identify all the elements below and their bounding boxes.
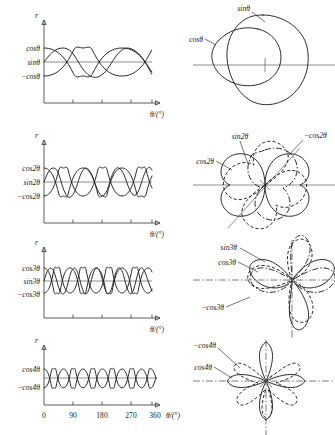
row3-polar-label-negcos3: −cos3θ xyxy=(201,303,224,312)
row1-polar-label-cos: cosθ xyxy=(189,35,203,44)
row3-cartesian-panel: cos3θ sin3θ −cos3θ r θ/(°) xyxy=(17,238,164,334)
row2-axes xyxy=(42,140,160,225)
row2-r-axis-label: r xyxy=(35,131,38,140)
row3-polar-label-cos3: cos3θ xyxy=(218,258,236,267)
row1-ylabel-2: −cosθ xyxy=(21,72,40,81)
row4-polar-label-negcos4: −cos4θ xyxy=(193,341,216,350)
row4-y-labels: cos4θ −cos4θ xyxy=(17,365,40,392)
row1-axes xyxy=(42,20,160,105)
row4-theta-axis-label: θ/(°) xyxy=(166,411,180,420)
xtick-3: 270 xyxy=(125,411,137,420)
xtick-2: 180 xyxy=(96,411,108,420)
row4-polar-labels: −cos4θ cos4θ xyxy=(193,341,240,378)
row2-ylabel-0: cos2θ xyxy=(22,164,40,173)
row2-polar-label-sin2: sin2θ xyxy=(232,132,249,141)
row4-cartesian-panel: cos4θ −cos4θ r 0 90 180 270 360 θ/(°) xyxy=(17,336,180,420)
row2-ylabel-2: −cos2θ xyxy=(17,192,40,201)
row2-polar-label-negcos2: −cos2θ xyxy=(304,131,327,140)
row4-x-ticklabels: 0 90 180 270 360 xyxy=(42,411,161,420)
row3-polar-labels: sin3θ cos3θ −cos3θ xyxy=(201,243,265,312)
row1-ylabel-0: cosθ xyxy=(26,44,40,53)
row2-polar-panel: sin2θ −cos2θ cos2θ xyxy=(193,131,335,229)
row1-polar-panel: sinθ cosθ xyxy=(189,4,335,105)
row4-polar-label-cos4: cos4θ xyxy=(194,363,212,372)
row3-ylabel-1: sin3θ xyxy=(24,277,41,286)
row4-ylabel-0: cos4θ xyxy=(22,365,40,374)
row1-curve-cos xyxy=(44,48,152,77)
row1-polar-label-sin: sinθ xyxy=(237,4,250,13)
row1-ylabel-1: sinθ xyxy=(27,58,40,67)
row4-polar-curve-negcos4 xyxy=(234,363,300,418)
row1-cartesian-panel: cosθ sinθ −cosθ r θ/(°) xyxy=(21,11,164,119)
row3-polar-panel: sin3θ cos3θ −cos3θ xyxy=(193,235,335,338)
row3-polar-curve-negcos3 xyxy=(250,235,335,292)
row1-polar-labels: sinθ cosθ xyxy=(189,4,265,45)
row3-y-labels: cos3θ sin3θ −cos3θ xyxy=(17,264,40,299)
row2-theta-axis-label: θ/(°) xyxy=(150,230,164,239)
row1-theta-axis-label: θ/(°) xyxy=(150,110,164,119)
row3-polar-curve-sin3 xyxy=(248,239,313,322)
row4-polar-panel: −cos4θ cos4θ xyxy=(193,340,335,435)
xtick-1: 90 xyxy=(69,411,77,420)
row4-ylabel-1: −cos4θ xyxy=(17,383,40,392)
row2-ylabel-1: sin2θ xyxy=(24,178,41,187)
row1-y-labels: cosθ sinθ −cosθ xyxy=(21,44,40,81)
row1-polar-curve-cos xyxy=(212,28,281,86)
row3-r-axis-label: r xyxy=(35,238,38,247)
row2-polar-label-cos2: cos2θ xyxy=(196,157,214,166)
row3-polar-label-sin3: sin3θ xyxy=(221,243,238,252)
row3-theta-axis-label: θ/(°) xyxy=(150,325,164,334)
row2-y-labels: cos2θ sin2θ −cos2θ xyxy=(17,164,40,201)
row4-r-axis-label: r xyxy=(35,336,38,345)
xtick-4: 360 xyxy=(149,411,161,420)
row2-cartesian-panel: cos2θ sin2θ −cos2θ r θ/(°) xyxy=(17,131,164,239)
trig-plot-figure: cosθ sinθ −cosθ r θ/(°) sinθ cosθ xyxy=(0,0,335,435)
row4-axes xyxy=(42,345,160,407)
row1-r-axis-label: r xyxy=(35,11,38,20)
row3-ylabel-2: −cos3θ xyxy=(17,290,40,299)
row3-axes xyxy=(42,247,160,320)
xtick-0: 0 xyxy=(42,411,46,420)
row3-ylabel-0: cos3θ xyxy=(22,264,40,273)
